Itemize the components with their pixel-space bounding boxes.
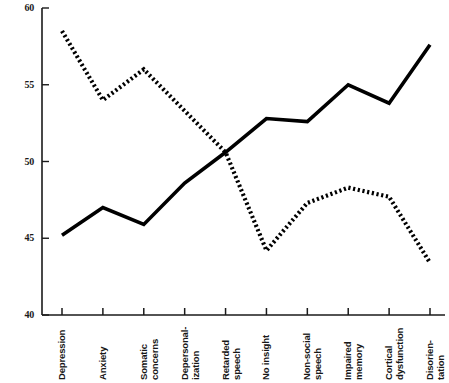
chart-figure: 4045505560 DepressionAnxietySomaticconce… (0, 0, 449, 383)
y-axis-tick-label: 45 (6, 232, 34, 243)
y-axis-tick-label: 40 (6, 309, 34, 320)
y-axis-ticks (42, 8, 49, 315)
y-axis-tick-label: 50 (6, 156, 34, 167)
x-axis-ticks (62, 308, 430, 315)
series-line-dotted (62, 31, 430, 263)
chart-plot-area (0, 0, 449, 383)
series-line-solid (62, 45, 430, 235)
y-axis-tick-label: 55 (6, 79, 34, 90)
y-axis-tick-label: 60 (6, 2, 34, 13)
